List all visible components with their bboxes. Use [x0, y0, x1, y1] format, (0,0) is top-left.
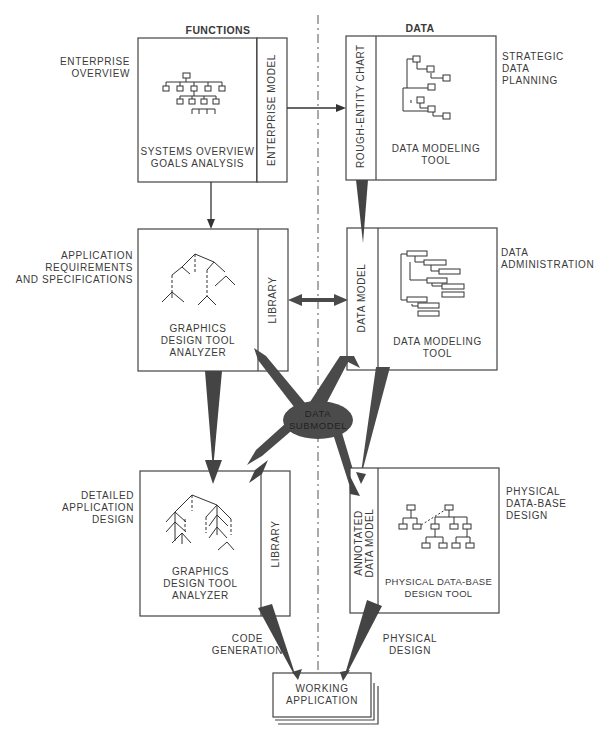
stage-detailed-app-design: DETAILEDAPPLICATIONDESIGN	[20, 490, 134, 526]
stage-physical-design: PHYSICALDESIGN	[380, 633, 440, 657]
stage-code-generation: CODEGENERATION	[200, 633, 295, 657]
stage-enterprise-overview: ENTERPRISEOVERVIEW	[20, 56, 130, 80]
tab-library-2: LIBRARY	[270, 504, 282, 584]
tab-annotated-data-model: ANNOTATEDDATA MODEL	[353, 501, 375, 585]
graphics-2-title: GRAPHICSDESIGN TOOLANALYZER	[140, 566, 261, 602]
stage-app-requirements: APPLICATIONREQUIREMENTSAND SPECIFICATION…	[10, 250, 133, 286]
data-modeling-2-title: DATA MODELINGTOOL	[378, 336, 497, 360]
diagram-canvas	[0, 0, 612, 739]
data-header: DATA	[385, 22, 455, 34]
tab-rough-entity-chart: ROUGH-ENTITY CHART	[355, 48, 367, 168]
data-submodel-label: DATASUBMODEL	[283, 408, 353, 432]
systems-overview-title: SYSTEMS OVERVIEWGOALS ANALYSIS	[138, 146, 257, 170]
functions-header: FUNCTIONS	[168, 24, 268, 36]
tab-data-model: DATA MODEL	[356, 258, 368, 338]
stage-strategic-data-planning: STRATEGICDATAPLANNING	[502, 51, 602, 87]
graphics-1-title: GRAPHICSDESIGN TOOLANALYZER	[138, 323, 258, 359]
stage-physical-db-design: PHYSICALDATA-BASEDESIGN	[506, 486, 606, 522]
tab-enterprise-model: ENTERPRISE MODEL	[266, 50, 278, 170]
data-modeling-1-title: DATA MODELINGTOOL	[376, 143, 496, 167]
stage-data-administration: DATAADMINISTRATION	[501, 247, 611, 271]
wedge-arrow	[205, 371, 222, 470]
physical-db-tool-title: PHYSICAL DATA-BASEDESIGN TOOL	[378, 576, 499, 600]
working-application-title: WORKINGAPPLICATION	[273, 683, 371, 707]
tab-library-1: LIBRARY	[267, 260, 279, 340]
